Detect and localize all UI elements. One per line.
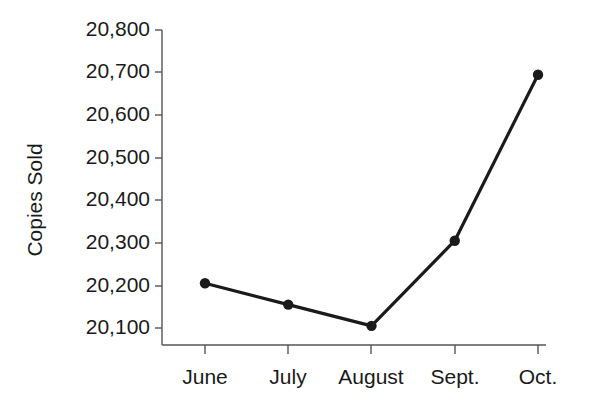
y-tick-label: 20,200 xyxy=(86,273,150,296)
data-series-copies-sold: June: 20,205July: 20,155August: 20,105Se… xyxy=(200,70,543,332)
y-axis-title: Copies Sold xyxy=(23,143,46,256)
y-tick-label: 20,700 xyxy=(86,59,150,82)
line-chart: Copies Sold 20,800 20,700 20,600 20,500 … xyxy=(0,0,594,411)
x-axis-ticks xyxy=(205,345,538,354)
chart-canvas: Copies Sold 20,800 20,700 20,600 20,500 … xyxy=(0,0,594,411)
data-point-marker[interactable]: Oct.: 20,695 xyxy=(533,70,543,80)
x-tick-label: Sept. xyxy=(430,365,479,388)
x-tick-label: July xyxy=(269,365,307,388)
x-tick-label: Oct. xyxy=(519,365,558,388)
x-tick-labels: June July August Sept. Oct. xyxy=(182,365,557,388)
data-point-marker[interactable]: June: 20,205 xyxy=(200,278,210,288)
data-point-marker[interactable]: July: 20,155 xyxy=(283,299,293,309)
data-line xyxy=(205,75,538,326)
y-tick-label: 20,300 xyxy=(86,230,150,253)
x-tick-label: August xyxy=(338,365,404,388)
y-tick-labels: 20,800 20,700 20,600 20,500 20,400 20,30… xyxy=(86,17,150,338)
y-tick-label: 20,600 xyxy=(86,102,150,125)
data-point-marker[interactable]: Sept.: 20,305 xyxy=(450,236,460,246)
y-tick-label: 20,100 xyxy=(86,315,150,338)
y-axis-ticks xyxy=(155,30,162,328)
data-point-marker[interactable]: August: 20,105 xyxy=(366,321,376,331)
y-tick-label: 20,500 xyxy=(86,145,150,168)
x-tick-label: June xyxy=(182,365,228,388)
y-tick-label: 20,800 xyxy=(86,17,150,40)
y-tick-label: 20,400 xyxy=(86,187,150,210)
y-axis-title-text: Copies Sold xyxy=(23,143,46,256)
